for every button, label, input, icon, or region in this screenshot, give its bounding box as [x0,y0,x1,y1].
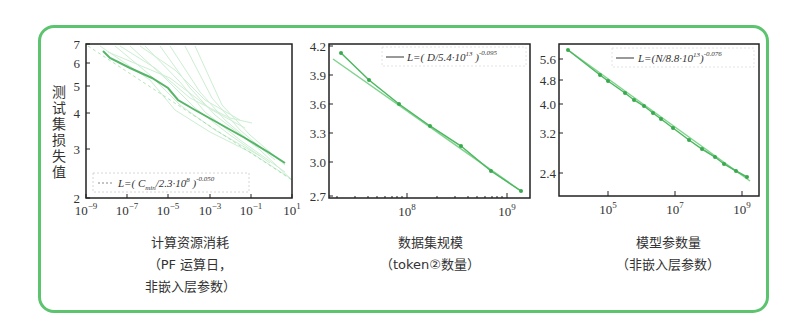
y-tick-label: 4.0 [540,97,556,112]
svg-text:109: 109 [733,200,751,217]
y-tick-label: 4.8 [540,73,556,88]
x-axis-label-compute: 计算资源消耗 （PF 运算日， 非嵌入层参数） [120,232,260,298]
parameters-fit-line [568,50,750,181]
x-axis-label-dataset: 数据集规模 （token②数量） [360,232,500,276]
y-tick-label: 3.2 [540,126,556,141]
y-tick-label: 2.4 [540,166,557,181]
y-tick-label: 5.6 [540,52,557,67]
svg-text:105: 105 [599,200,617,217]
x-tick-labels: 105 107 109 [599,200,751,217]
svg-text:107: 107 [666,200,684,217]
x-axis-label-parameters: 模型参数量 （非嵌入层参数） [598,232,738,276]
